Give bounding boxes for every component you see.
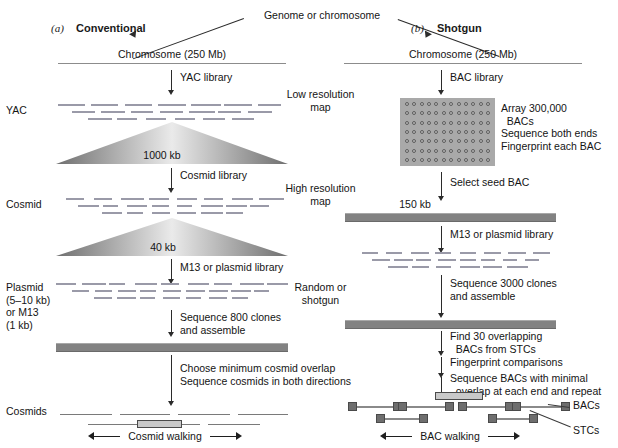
- genome-or-chromosome-label: Genome or chromosome: [242, 9, 402, 22]
- arrow-label-m13-plasmid-library: M13 or plasmid library: [180, 261, 283, 274]
- clone-segment: [412, 266, 430, 268]
- clone-segment: [127, 212, 143, 214]
- arrow-sequence-3000-clones: [441, 275, 442, 315]
- bac-array-well: [427, 111, 431, 115]
- bac-array-well: [457, 149, 461, 153]
- bac-walking-line-right: [488, 436, 514, 437]
- clone-segment: [177, 212, 197, 214]
- bac-array-well: [449, 121, 453, 125]
- clone-segment: [177, 198, 197, 200]
- bac-walking-label: BAC walking: [410, 430, 490, 443]
- clone-segment: [483, 266, 502, 268]
- center-label-low-resolution-map: Low resolution map: [273, 88, 368, 113]
- bac-array-well: [412, 111, 416, 115]
- triangle-1000kb-label: 1000 kb: [122, 149, 202, 162]
- arrow-label-fingerprint-comparisons: Fingerprint comparisons: [450, 356, 563, 369]
- bac-array-well: [479, 130, 483, 134]
- clone-segment: [109, 283, 126, 285]
- arrow-sequence-3000-clones-head: [438, 313, 444, 318]
- bac-array-well: [427, 158, 431, 162]
- clone-segment: [218, 111, 240, 113]
- arrow-label-sequence-800-clones: Sequence 800 clones and assemble: [180, 311, 281, 336]
- clone-segment: [416, 259, 431, 261]
- bac-array-well: [434, 130, 438, 134]
- bac-array-well: [442, 130, 446, 134]
- arrow-label-find-30-overlapping-bacs: Find 30 overlapping BACs from STCs: [450, 330, 542, 355]
- clone-segment: [186, 297, 201, 299]
- bac-array-well: [457, 130, 461, 134]
- cosmid-walking-arrow-right: [236, 432, 242, 440]
- bac-array-well: [420, 121, 424, 125]
- bac-array-well: [464, 139, 468, 143]
- arrow-label-yac-library: YAC library: [180, 71, 232, 84]
- cosmid-clone-tile: [60, 414, 112, 415]
- bac-array-well: [457, 121, 461, 125]
- bac-array-well: [420, 139, 424, 143]
- bac-array-grid: [400, 98, 495, 166]
- shotgun-assembled-contig: [345, 320, 556, 329]
- legend-label-stcs: STCs: [573, 424, 599, 437]
- clone-segment: [78, 205, 99, 207]
- bac-array-well: [442, 139, 446, 143]
- bac-array-well: [471, 130, 475, 134]
- clone-segment: [72, 111, 95, 113]
- arrow-label-sequence-3000-clones: Sequence 3000 clones and assemble: [450, 277, 557, 302]
- bac-array-well: [457, 111, 461, 115]
- clone-segment: [394, 259, 413, 261]
- stc-marker: [348, 402, 357, 411]
- clone-segment: [508, 252, 526, 254]
- bac-array-well: [405, 121, 409, 125]
- bac-array-well: [464, 121, 468, 125]
- shotgun-chromosome-line: [344, 63, 582, 64]
- bac-array-well: [486, 102, 490, 106]
- clone-segment: [191, 104, 221, 106]
- arrow-label-shotgun-m13-plasmid-library: M13 or plasmid library: [450, 228, 553, 241]
- arrow-label-select-seed-bac: Select seed BAC: [450, 176, 529, 189]
- clone-segment: [117, 118, 137, 120]
- bac-array-well: [427, 130, 431, 134]
- bac-array-well: [464, 158, 468, 162]
- arrow-sequence-800-clones-head: [168, 332, 174, 337]
- bac-array-well: [479, 102, 483, 106]
- arrow-sequence-800-clones: [171, 310, 172, 334]
- clone-segment: [460, 259, 477, 261]
- bac-array-well: [442, 121, 446, 125]
- bac-array-well: [449, 149, 453, 153]
- clone-segment: [152, 212, 171, 214]
- row-label-cosmid: Cosmid: [6, 198, 42, 211]
- arrow-bac-library-head: [438, 90, 444, 95]
- bac-array-well: [457, 158, 461, 162]
- bac-array-well: [471, 111, 475, 115]
- arrow-m13-plasmid-library: [171, 259, 172, 281]
- legend-label-bacs: BACs: [573, 399, 600, 412]
- clone-segment: [58, 104, 85, 106]
- clone-segment: [362, 252, 378, 254]
- clone-segment: [232, 198, 254, 200]
- clone-segment: [201, 212, 223, 214]
- bac-walking-line-left: [386, 436, 412, 437]
- stc-marker: [529, 414, 538, 423]
- clone-segment: [131, 111, 154, 113]
- clone-segment: [226, 212, 243, 214]
- clone-segment: [140, 290, 155, 292]
- bac-array-well: [449, 158, 453, 162]
- clone-segment: [95, 290, 112, 292]
- bac-array-well: [412, 121, 416, 125]
- bac-array-well: [412, 139, 416, 143]
- bac-array-well: [405, 158, 409, 162]
- cosmid-walking-line-right: [210, 436, 236, 437]
- shotgun-seed-bac-box: [435, 392, 483, 400]
- bac-array-well: [464, 130, 468, 134]
- bac-array-well: [427, 121, 431, 125]
- clone-segment: [484, 252, 501, 254]
- bac-array-well: [405, 139, 409, 143]
- clone-segment: [460, 252, 477, 254]
- bac-array-well: [479, 149, 483, 153]
- clone-segment: [125, 104, 153, 106]
- arrow-choose-minimum-overlap-head: [168, 401, 174, 406]
- arrow-label-choose-minimum-overlap: Choose minimum cosmid overlap Sequence c…: [180, 362, 351, 387]
- bac-array-well: [427, 139, 431, 143]
- clone-segment: [214, 283, 232, 285]
- stc-marker: [419, 414, 428, 423]
- clone-segment: [186, 290, 205, 292]
